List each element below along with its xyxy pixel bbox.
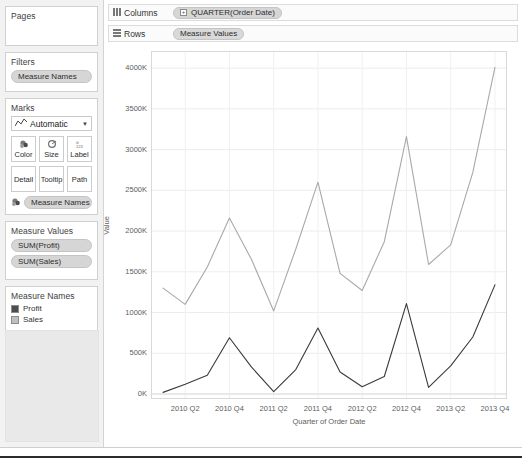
legend-item-sales[interactable]: Sales (11, 315, 92, 324)
y-axis-title: Value (102, 216, 111, 235)
marks-color-button[interactable]: Color (11, 136, 36, 162)
mark-type-dropdown[interactable]: Automatic ▼ (11, 116, 92, 131)
columns-shelf[interactable]: Columns + QUARTER(Order Date) (108, 4, 518, 21)
marks-size-button[interactable]: Size (39, 136, 64, 162)
filter-pill-measure-names[interactable]: Measure Names (11, 70, 92, 83)
status-bar (0, 447, 522, 460)
measure-values-pill-sales[interactable]: SUM(Sales) (11, 255, 92, 268)
marks-path-label: Path (72, 175, 87, 184)
y-axis-tick-label: 4000K (125, 63, 147, 72)
label-text-icon: ili123 (75, 139, 85, 149)
x-axis-tick-label: 2013 Q4 (481, 404, 510, 413)
measure-values-title: Measure Values (11, 226, 92, 236)
measure-values-pill-profit[interactable]: SUM(Profit) (11, 239, 92, 252)
filter-pill-label: Measure Names (18, 72, 77, 81)
plus-icon[interactable]: + (180, 9, 187, 16)
rows-grid-icon (113, 29, 121, 39)
x-axis-tick-label: 2012 Q4 (392, 404, 421, 413)
legend-swatch-sales (11, 316, 19, 324)
pages-title: Pages (11, 11, 92, 21)
chart-container: Value 0K500K1000K1500K2000K2500K3000K350… (108, 46, 518, 442)
columns-pill-label: QUARTER(Order Date) (191, 8, 275, 17)
rows-pill-label: Measure Values (180, 29, 237, 38)
line-chart-svg (152, 52, 506, 398)
x-axis-tick-label: 2010 Q4 (215, 404, 244, 413)
worksheet-pane: Columns + QUARTER(Order Date) Rows Measu… (104, 0, 522, 447)
window-bottom-edge (0, 456, 522, 458)
columns-drop-zone[interactable]: + QUARTER(Order Date) (171, 7, 517, 19)
marks-label-button[interactable]: ili123 Label (67, 136, 92, 162)
chevron-down-icon[interactable]: ▼ (82, 121, 88, 127)
svg-text:123: 123 (76, 144, 83, 149)
tableau-worksheet-window: Pages Filters Measure Names Marks Automa… (0, 0, 522, 460)
x-axis-tick-label: 2012 Q2 (348, 404, 377, 413)
plot-area[interactable] (151, 51, 507, 399)
rows-shelf-label-group: Rows (109, 29, 171, 39)
color-palette-icon (19, 139, 29, 149)
y-axis-tick-label: 500K (129, 348, 147, 357)
columns-pill-quarter-order-date[interactable]: + QUARTER(Order Date) (173, 7, 282, 19)
marks-field-row: Measure Names (11, 196, 92, 209)
marks-button-row-1: Color Size ili123 Label (11, 136, 92, 162)
sidebar-empty-panel (5, 330, 99, 442)
y-axis-tick-label: 3000K (125, 144, 147, 153)
measure-values-pill-profit-label: SUM(Profit) (18, 241, 60, 250)
marks-title: Marks (11, 103, 92, 113)
color-palette-icon (11, 197, 21, 209)
legend-label-sales: Sales (23, 315, 43, 324)
rows-shelf[interactable]: Rows Measure Values (108, 25, 518, 42)
filters-card[interactable]: Filters Measure Names (5, 52, 98, 92)
line-chart-icon (15, 119, 27, 129)
marks-pill-measure-names[interactable]: Measure Names (24, 196, 92, 209)
measure-values-card: Measure Values SUM(Profit) SUM(Sales) (5, 221, 98, 280)
rows-drop-zone[interactable]: Measure Values (171, 28, 517, 40)
columns-shelf-label-group: Columns (109, 8, 171, 18)
color-legend-card: Measure Names Profit Sales (5, 286, 98, 331)
marks-detail-button[interactable]: Detail (11, 166, 36, 192)
y-axis-tick-label: 1000K (125, 307, 147, 316)
marks-pill-label: Measure Names (31, 198, 90, 207)
marks-detail-label: Detail (14, 175, 33, 184)
columns-grid-icon (113, 8, 121, 18)
x-axis: Quarter of Order Date 2010 Q22010 Q42011… (151, 402, 507, 442)
mark-type-label: Automatic (30, 119, 82, 129)
legend-title: Measure Names (11, 291, 92, 301)
marks-card: Marks Automatic ▼ Color (5, 98, 98, 215)
y-axis-tick-label: 3500K (125, 103, 147, 112)
x-axis-title: Quarter of Order Date (293, 417, 366, 426)
y-axis-tick-label: 2000K (125, 226, 147, 235)
marks-color-label: Color (15, 150, 33, 159)
legend-item-profit[interactable]: Profit (11, 304, 92, 313)
y-axis-tick-label: 2500K (125, 185, 147, 194)
y-axis-tick-label: 1500K (125, 266, 147, 275)
marks-tooltip-button[interactable]: Tooltip (39, 166, 64, 192)
x-axis-tick-label: 2013 Q2 (436, 404, 465, 413)
y-axis: Value 0K500K1000K1500K2000K2500K3000K350… (108, 46, 151, 404)
marks-tooltip-label: Tooltip (41, 175, 63, 184)
marks-size-label: Size (44, 150, 59, 159)
measure-values-pill-sales-label: SUM(Sales) (18, 257, 61, 266)
marks-path-button[interactable]: Path (67, 166, 92, 192)
size-circle-icon (47, 139, 57, 149)
legend-swatch-profit (11, 305, 19, 313)
marks-button-row-2: Detail Tooltip Path (11, 166, 92, 192)
legend-label-profit: Profit (23, 304, 42, 313)
columns-label: Columns (124, 8, 158, 18)
marks-label-label: Label (70, 150, 88, 159)
x-axis-tick-label: 2011 Q4 (304, 404, 332, 413)
x-axis-tick-label: 2010 Q2 (171, 404, 200, 413)
rows-pill-measure-values[interactable]: Measure Values (173, 28, 244, 40)
pages-card[interactable]: Pages (5, 6, 98, 46)
y-axis-tick-label: 0K (138, 389, 147, 398)
filters-title: Filters (11, 57, 92, 67)
x-axis-tick-label: 2011 Q2 (260, 404, 288, 413)
rows-label: Rows (124, 29, 145, 39)
sidebar: Pages Filters Measure Names Marks Automa… (0, 0, 104, 447)
